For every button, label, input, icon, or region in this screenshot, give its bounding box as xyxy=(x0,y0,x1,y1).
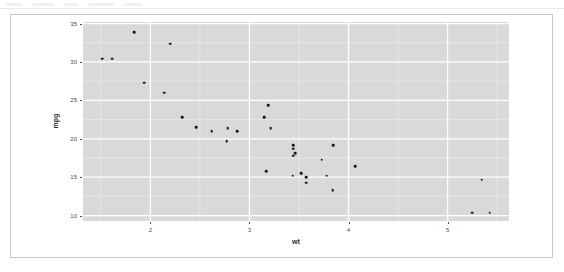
x-tick-mark xyxy=(150,222,151,224)
data-point xyxy=(111,58,114,61)
grid-lines xyxy=(83,22,509,221)
y-tick-mark xyxy=(80,100,82,101)
y-tick-mark xyxy=(80,62,82,63)
data-point xyxy=(143,81,146,84)
scatter-plot: 101520253035 2345 mpg wt xyxy=(11,15,552,257)
x-tick-label: 4 xyxy=(347,227,350,233)
x-tick-label: 2 xyxy=(149,227,152,233)
data-point xyxy=(291,174,294,177)
data-point xyxy=(267,104,270,107)
data-point xyxy=(300,172,303,175)
data-point xyxy=(269,127,272,130)
data-point xyxy=(354,165,357,168)
x-axis-title: wt xyxy=(83,238,509,245)
y-tick-mark xyxy=(80,177,82,178)
data-point xyxy=(195,126,198,129)
y-axis-title: mpg xyxy=(52,114,59,129)
toolbar-ghost-item xyxy=(88,3,114,6)
data-point xyxy=(163,91,166,94)
data-point xyxy=(305,181,308,184)
data-point xyxy=(488,211,491,214)
toolbar-ghost-item xyxy=(6,3,22,6)
data-point xyxy=(305,176,308,179)
y-tick-label: 30 xyxy=(59,59,77,65)
x-tick-label: 5 xyxy=(446,227,449,233)
y-tick-label: 25 xyxy=(59,97,77,103)
toolbar-strip xyxy=(0,0,564,9)
toolbar-ghost-item xyxy=(64,3,78,6)
data-point xyxy=(332,144,335,147)
toolbar-ghost-item xyxy=(124,3,142,6)
x-tick-mark xyxy=(249,222,250,224)
data-point xyxy=(133,31,136,34)
data-point xyxy=(101,58,104,61)
data-point xyxy=(471,211,474,214)
x-tick-label: 3 xyxy=(248,227,251,233)
data-point xyxy=(331,189,334,192)
y-tick-label: 15 xyxy=(59,174,77,180)
y-tick-label: 20 xyxy=(59,136,77,142)
data-point xyxy=(263,116,266,119)
data-point xyxy=(320,158,323,161)
data-point xyxy=(265,170,268,173)
data-point xyxy=(292,147,295,150)
data-point xyxy=(236,130,239,133)
y-tick-label: 10 xyxy=(59,213,77,219)
data-point xyxy=(210,130,213,133)
data-point xyxy=(169,42,172,45)
plot-panel xyxy=(83,22,509,221)
data-point xyxy=(225,140,228,143)
x-tick-mark xyxy=(349,222,350,224)
x-tick-mark xyxy=(448,222,449,224)
y-tick-mark xyxy=(80,139,82,140)
plot-card: 101520253035 2345 mpg wt xyxy=(10,14,553,258)
y-tick-label: 35 xyxy=(59,21,77,27)
data-point xyxy=(292,144,295,147)
data-point xyxy=(325,174,328,177)
data-point xyxy=(480,178,483,181)
toolbar-ghost-item xyxy=(32,3,54,6)
data-point xyxy=(292,154,295,157)
y-tick-mark xyxy=(80,24,82,25)
y-tick-mark xyxy=(80,216,82,217)
data-point xyxy=(181,116,184,119)
data-point xyxy=(226,127,229,130)
